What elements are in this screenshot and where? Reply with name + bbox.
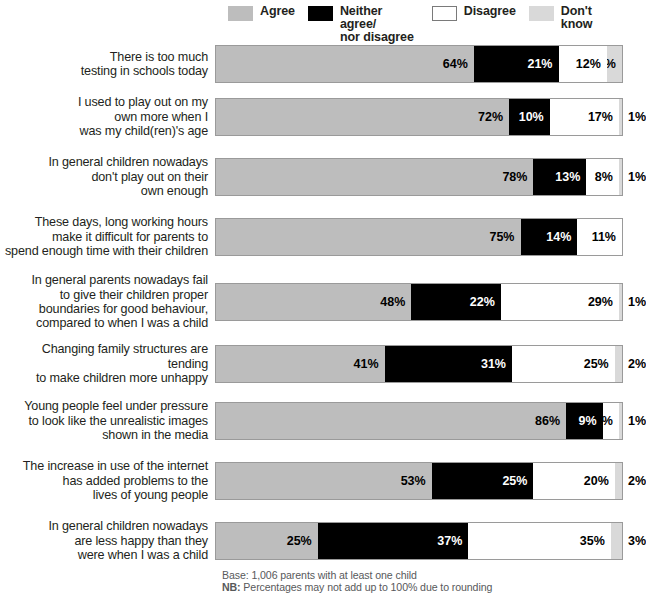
segment-value-label: 86%: [535, 414, 566, 428]
stacked-bar: 64%21%12%4%: [215, 45, 623, 83]
footnote-note: NB: Percentages may not add up to 100% d…: [222, 582, 637, 593]
chart-bar-area: 75%14%11%: [215, 207, 637, 267]
agree-swatch-icon: [228, 6, 253, 21]
segment-disagree: 8%: [586, 159, 619, 195]
segment-agree: 48%: [216, 284, 411, 320]
legend-label-dont-know: Don't know: [561, 5, 624, 31]
segment-outside-label: 2%: [628, 357, 646, 371]
segment-agree: 41%: [216, 346, 385, 382]
segment-disagree: 25%: [512, 346, 615, 382]
segment-value-label: 10%: [519, 110, 550, 124]
legend-label-agree: Agree: [260, 5, 295, 18]
segment-value-label: 9%: [579, 414, 603, 428]
stacked-bar: 78%13%8%1%: [215, 158, 623, 196]
segment-outside-label: 2%: [628, 474, 646, 488]
stacked-bar: 48%22%29%1%: [215, 283, 623, 321]
segment-value-label: 21%: [527, 57, 558, 71]
segment-dont-know: 1%: [619, 159, 623, 195]
segment-agree: 86%: [216, 403, 566, 439]
segment-dont-know: 1%: [619, 403, 623, 439]
segment-agree: 72%: [216, 99, 509, 135]
footnote-nb-prefix: NB:: [222, 581, 241, 593]
segment-outside-label: 1%: [628, 414, 646, 428]
segment-disagree: 35%: [468, 523, 610, 559]
segment-value-label: 4%: [603, 414, 619, 428]
chart-footnote: Base: 1,006 parents with at least one ch…: [222, 570, 637, 593]
legend-item-agree: Agree: [228, 5, 295, 21]
segment-agree: 64%: [216, 46, 474, 82]
segment-outside-label: 3%: [628, 534, 646, 548]
segment-neither: 10%: [509, 99, 550, 135]
segment-outside-label: 1%: [628, 110, 646, 124]
segment-value-label: 25%: [287, 534, 318, 548]
chart-bar-area: 78%13%8%1%1%: [215, 147, 646, 207]
dont-know-swatch-icon: [529, 6, 554, 21]
chart-row: In general children nowadays are less ha…: [0, 511, 637, 571]
segment-value-label: 48%: [380, 295, 411, 309]
segment-disagree: 20%: [533, 463, 614, 499]
segment-neither: 22%: [411, 284, 501, 320]
segment-neither: 14%: [521, 219, 578, 255]
segment-value-label: 64%: [443, 57, 474, 71]
segment-neither: 25%: [432, 463, 534, 499]
chart-row-label: In general children nowadays are less ha…: [0, 519, 215, 562]
segment-value-label: 17%: [588, 110, 619, 124]
chart-row-label: In general parents nowadays fail to give…: [0, 273, 215, 331]
neither-swatch-icon: [308, 6, 333, 21]
chart-row-label: These days, long working hours make it d…: [0, 215, 215, 258]
chart-row-label: Changing family structures are tending t…: [0, 342, 215, 385]
segment-disagree: 4%: [603, 403, 619, 439]
segment-dont-know: 4%: [607, 46, 623, 82]
segment-value-label: 31%: [481, 357, 512, 371]
segment-value-label: 41%: [354, 357, 385, 371]
segment-value-label: 22%: [470, 295, 501, 309]
segment-neither: 31%: [385, 346, 512, 382]
stacked-bar-chart: There is too much testing in schools tod…: [0, 41, 637, 571]
stacked-bar: 75%14%11%: [215, 218, 623, 256]
segment-value-label: 14%: [546, 230, 577, 244]
chart-row: I used to play out on my own more when I…: [0, 87, 637, 147]
segment-dont-know: 2%: [615, 463, 623, 499]
chart-legend: Agree Neither agree/ nor disagree Disagr…: [228, 5, 637, 35]
stacked-bar: 41%31%25%2%: [215, 345, 623, 383]
segment-value-label: 13%: [555, 170, 586, 184]
chart-bar-area: 64%21%12%4%: [215, 41, 637, 87]
segment-value-label: 78%: [502, 170, 533, 184]
segment-dont-know: 3%: [611, 523, 623, 559]
segment-neither: 37%: [318, 523, 469, 559]
chart-bar-area: 25%37%35%3%3%: [215, 511, 646, 571]
segment-neither: 21%: [474, 46, 559, 82]
stacked-bar: 53%25%20%2%: [215, 462, 623, 500]
segment-value-label: 72%: [478, 110, 509, 124]
segment-disagree: 12%: [559, 46, 607, 82]
segment-value-label: 11%: [592, 230, 622, 244]
chart-bar-area: 86%9%4%1%1%: [215, 391, 646, 451]
legend-item-dont-know: Don't know: [529, 5, 624, 31]
segment-value-label: 25%: [502, 474, 533, 488]
segment-agree: 78%: [216, 159, 533, 195]
chart-row: Changing family structures are tending t…: [0, 337, 637, 391]
segment-neither: 9%: [566, 403, 603, 439]
segment-dont-know: 1%: [619, 99, 623, 135]
segment-agree: 53%: [216, 463, 432, 499]
chart-row: There is too much testing in schools tod…: [0, 41, 637, 87]
segment-agree: 75%: [216, 219, 521, 255]
chart-bar-area: 72%10%17%1%1%: [215, 87, 646, 147]
disagree-swatch-icon: [432, 6, 457, 21]
legend-label-disagree: Disagree: [464, 5, 516, 18]
legend-item-disagree: Disagree: [432, 5, 516, 21]
segment-value-label: 35%: [580, 534, 611, 548]
segment-value-label: 20%: [584, 474, 615, 488]
stacked-bar: 25%37%35%3%: [215, 522, 623, 560]
segment-neither: 13%: [533, 159, 586, 195]
segment-value-label: 25%: [584, 357, 615, 371]
segment-outside-label: 1%: [628, 295, 646, 309]
chart-row-label: Young people feel under pressure to look…: [0, 399, 215, 442]
segment-dont-know: 2%: [615, 346, 623, 382]
segment-disagree: 11%: [577, 219, 622, 255]
stacked-bar: 72%10%17%1%: [215, 98, 623, 136]
chart-row-label: In general children nowadays don't play …: [0, 155, 215, 198]
segment-value-label: 37%: [437, 534, 468, 548]
segment-value-label: 12%: [576, 57, 607, 71]
chart-row: The increase in use of the internet has …: [0, 451, 637, 511]
